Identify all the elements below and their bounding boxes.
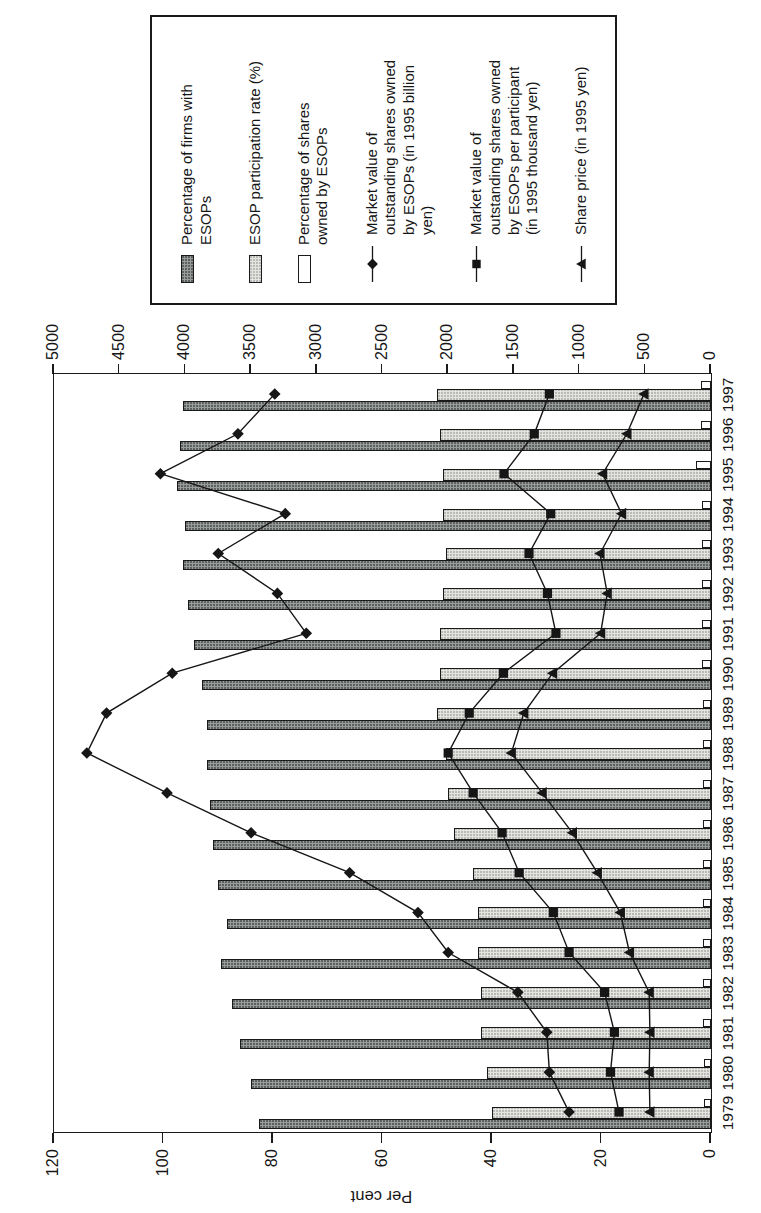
marker-diamond-1994 (279, 508, 291, 520)
legend-item: ESOP participation rate (%) (246, 31, 265, 283)
marker-triangle-1988 (505, 747, 515, 759)
right-axis-tick-label: 3000 (306, 300, 326, 360)
right-axis-tick-label: 1500 (503, 300, 523, 360)
marker-square-1989 (465, 709, 474, 718)
right-axis-tick-label: 500 (634, 300, 654, 360)
marker-triangle-1987 (536, 787, 546, 799)
right-axis-tick-label: 2000 (437, 300, 457, 360)
marker-square-1980 (606, 1068, 615, 1077)
right-axis-tick-label: 3500 (240, 300, 260, 360)
right-axis-tick (52, 364, 54, 374)
marker-diamond-1979 (563, 1106, 575, 1118)
right-axis-tick (709, 364, 711, 374)
line-market-value-esops (81, 388, 575, 1118)
marker-diamond-1993 (212, 548, 224, 560)
legend-item: Market value of outstanding shares owned… (467, 31, 541, 283)
line-series-overlay (54, 374, 711, 1132)
bar-white-swatch-icon (298, 255, 311, 283)
legend-item-label: Percentage of firms with ESOPs (178, 84, 215, 245)
marker-diamond-1991 (300, 628, 312, 640)
marker-square-1996 (530, 429, 539, 438)
left-axis-tick-label: 0 (700, 1149, 720, 1199)
marker-square-1993 (524, 549, 533, 558)
bar-dark-swatch-icon (181, 255, 194, 283)
legend-item: Percentage of firms with ESOPs (178, 31, 215, 283)
marker-square-1984 (549, 908, 558, 917)
esop-combo-chart: Per cent Percentage of firms with ESOPsE… (0, 0, 761, 1213)
marker-diamond-1981 (541, 1026, 553, 1038)
left-axis-tick (271, 1133, 273, 1143)
right-axis-tick-label: 0 (700, 300, 720, 360)
marker-diamond-1989 (101, 707, 113, 719)
right-axis-tick-label: 4500 (109, 300, 129, 360)
right-axis-tick-label: 1000 (569, 300, 589, 360)
line-path-market-value-esops (87, 394, 569, 1112)
marker-triangle-1995 (597, 468, 607, 480)
right-axis-tick-label: 2500 (372, 300, 392, 360)
marker-triangle-1994 (616, 508, 626, 520)
marker-square-1985 (515, 868, 524, 877)
marker-triangle-1996 (621, 428, 631, 440)
line-market-value-per-participant (444, 389, 624, 1116)
left-axis-tick-label: 20 (591, 1149, 611, 1199)
legend-item: Share price (in 1995 yen) (572, 31, 591, 283)
marker-triangle-1984 (615, 907, 625, 919)
left-axis-tick-label: 100 (153, 1149, 173, 1199)
marker-triangle-1990 (547, 667, 557, 679)
right-axis-tick (512, 364, 514, 374)
marker-diamond-1987 (161, 787, 173, 799)
legend-item: Percentage of shares owned by ESOPs (295, 31, 332, 283)
line-path-share-price (511, 394, 650, 1112)
legend: Percentage of firms with ESOPsESOP parti… (150, 15, 617, 305)
x-axis-year-label: 1997 (718, 370, 738, 420)
marker-triangle-1986 (567, 827, 577, 839)
line-share-price (505, 388, 654, 1118)
right-axis-tick (381, 364, 383, 374)
left-axis-tick (381, 1133, 383, 1143)
right-axis-tick (315, 364, 317, 374)
marker-diamond-1983 (442, 947, 454, 959)
marker-square-1995 (499, 469, 508, 478)
marker-diamond-1980 (544, 1066, 556, 1078)
marker-square-1992 (543, 589, 552, 598)
marker-diamond-1984 (412, 907, 424, 919)
right-axis-tick (249, 364, 251, 374)
right-axis-tick (446, 364, 448, 374)
marker-square-1987 (469, 788, 478, 797)
line-square-swatch-icon (469, 245, 484, 283)
right-axis-tick (118, 364, 120, 374)
marker-square-1990 (499, 669, 508, 678)
marker-triangle-1993 (594, 548, 604, 560)
legend-item-label: Percentage of shares owned by ESOPs (295, 102, 332, 245)
left-axis-tick (162, 1133, 164, 1143)
left-axis-tick-label: 60 (372, 1149, 392, 1199)
line-path-market-value-per-participant (448, 394, 619, 1112)
right-axis-tick (184, 364, 186, 374)
left-axis-tick-label: 40 (481, 1149, 501, 1199)
marker-triangle-1997 (638, 388, 648, 400)
marker-diamond-1988 (81, 747, 93, 759)
marker-square-1983 (564, 948, 573, 957)
marker-square-1981 (610, 1028, 619, 1037)
legend-item-label: Market value of outstanding shares owned… (467, 60, 541, 235)
marker-diamond-1992 (272, 588, 284, 600)
right-axis-tick (644, 364, 646, 374)
legend-item-label: Share price (in 1995 yen) (572, 67, 591, 235)
right-axis-tick-label: 4000 (174, 300, 194, 360)
marker-square-1982 (600, 988, 609, 997)
marker-diamond-1990 (166, 667, 178, 679)
left-axis-tick (709, 1133, 711, 1143)
left-axis-tick (600, 1133, 602, 1143)
legend-item-label: ESOP participation rate (%) (246, 61, 265, 245)
marker-square-1997 (545, 389, 554, 398)
legend-item-label: Market value of outstanding shares owned… (363, 60, 437, 235)
marker-square-1979 (614, 1107, 623, 1116)
marker-diamond-1985 (344, 867, 356, 879)
marker-square-1991 (551, 629, 560, 638)
marker-square-1988 (444, 748, 453, 757)
legend-item: Market value of outstanding shares owned… (363, 31, 437, 283)
plot-area (53, 373, 712, 1133)
scanned-figure-page: Per cent Percentage of firms with ESOPsE… (0, 0, 761, 1213)
rotated-chart-wrapper: Per cent Percentage of firms with ESOPsE… (0, 0, 761, 1213)
left-axis-tick (52, 1133, 54, 1143)
